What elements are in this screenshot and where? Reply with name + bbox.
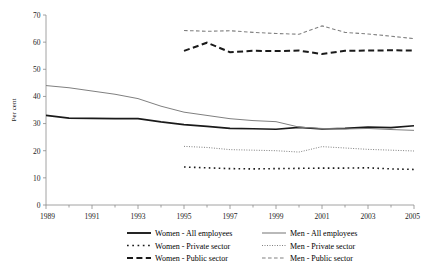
legend-label: Men - All employees (290, 229, 357, 238)
y-axis-tick-label: 70 (33, 11, 41, 20)
y-axis-tick-label: 40 (33, 92, 41, 101)
x-axis-tick-label: 1999 (269, 212, 284, 221)
legend-item[interactable]: Women - Public sector (127, 254, 228, 263)
chart-axes: 0102030405060701989199119931995199719992… (33, 11, 420, 221)
legend-item[interactable]: Men - Private sector (262, 242, 355, 251)
legend-label: Women - All employees (155, 229, 232, 238)
x-axis-tick-label: 1995 (177, 212, 192, 221)
series-line-5 (184, 26, 414, 39)
series-line-0 (46, 115, 414, 129)
legend-item[interactable]: Women - Private sector (127, 242, 230, 251)
line-chart: 0102030405060701989199119931995199719992… (0, 0, 423, 276)
legend-label: Women - Private sector (155, 242, 230, 251)
x-axis-tick-label: 1991 (85, 212, 100, 221)
x-axis-tick-label: 2003 (361, 212, 376, 221)
legend-item[interactable]: Men - All employees (262, 229, 357, 238)
legend-label: Men - Private sector (290, 242, 355, 251)
y-axis-tick-label: 50 (33, 65, 41, 74)
chart-figure: 0102030405060701989199119931995199719992… (0, 0, 423, 276)
y-axis-tick-label: 30 (33, 119, 41, 128)
series-line-3 (184, 146, 414, 152)
series-line-1 (46, 86, 414, 131)
series-line-2 (184, 167, 414, 169)
legend-label: Men - Public sector (290, 254, 353, 263)
x-axis-tick-label: 2001 (315, 212, 330, 221)
y-axis-title: Per cent (10, 99, 18, 122)
legend-item[interactable]: Women - All employees (127, 229, 232, 238)
x-axis-tick-label: 2005 (405, 212, 420, 221)
chart-series-group (46, 26, 414, 170)
y-axis-tick-label: 10 (33, 174, 41, 183)
x-axis-tick-label: 1989 (40, 212, 55, 221)
y-axis-tick-label: 20 (33, 147, 41, 156)
x-axis-tick-label: 1993 (131, 212, 146, 221)
y-axis-tick-label: 0 (37, 201, 41, 210)
legend-label: Women - Public sector (155, 254, 228, 263)
x-axis-tick-label: 1997 (223, 212, 238, 221)
y-axis-tick-label: 60 (33, 38, 41, 47)
series-line-4 (184, 43, 414, 54)
legend-item[interactable]: Men - Public sector (262, 254, 353, 263)
chart-legend: Women - All employeesMen - All employees… (127, 229, 357, 263)
